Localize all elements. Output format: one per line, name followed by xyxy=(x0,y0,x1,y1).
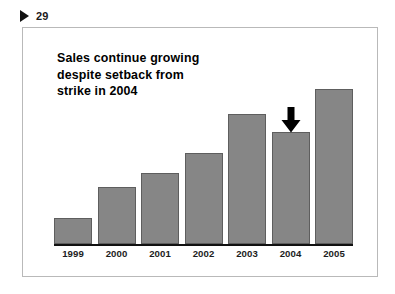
x-tick-label-1999: 1999 xyxy=(54,248,92,260)
down-arrow-icon xyxy=(281,107,301,133)
bar-2002 xyxy=(185,153,223,244)
page-number: 29 xyxy=(36,11,49,22)
bar-slot-2004 xyxy=(272,38,310,244)
bar-slot-2005 xyxy=(315,38,353,244)
bar-2003 xyxy=(228,114,266,244)
slide-frame: Sales continue growing despite setback f… xyxy=(22,27,378,277)
x-tick-label-2005: 2005 xyxy=(315,248,353,260)
bar-slot-2003 xyxy=(228,38,266,244)
x-tick-label-2004: 2004 xyxy=(272,248,310,260)
x-tick-label-2002: 2002 xyxy=(185,248,223,260)
bar-2004 xyxy=(272,132,310,244)
x-axis-tick-labels: 1999200020012002200320042005 xyxy=(54,248,353,260)
plot-area xyxy=(54,38,353,244)
play-triangle-icon xyxy=(20,10,29,22)
bar-slot-2000 xyxy=(98,38,136,244)
x-tick-label-2000: 2000 xyxy=(98,248,136,260)
bar-slot-1999 xyxy=(54,38,92,244)
slide-page: 29 Sales continue growing despite setbac… xyxy=(0,0,395,294)
bar-slot-2001 xyxy=(141,38,179,244)
bar-chart: 1999200020012002200320042005 xyxy=(23,28,379,278)
bar-2005 xyxy=(315,89,353,244)
x-tick-label-2001: 2001 xyxy=(141,248,179,260)
bar-2000 xyxy=(98,187,136,244)
bar-1999 xyxy=(54,218,92,244)
page-marker: 29 xyxy=(20,9,49,23)
bar-series xyxy=(54,38,353,244)
bar-slot-2002 xyxy=(185,38,223,244)
x-axis-line xyxy=(54,244,353,246)
bar-2001 xyxy=(141,173,179,244)
x-tick-label-2003: 2003 xyxy=(228,248,266,260)
